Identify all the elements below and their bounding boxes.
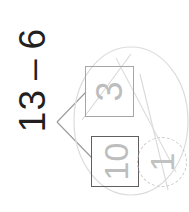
number-bond-box-bottom[interactable]: 10	[91, 136, 139, 187]
answer-value: 1	[138, 138, 186, 186]
bond-line-to-top-box	[57, 92, 86, 122]
box-bottom-value: 10	[91, 139, 140, 185]
answer-circle[interactable]: 1	[137, 137, 187, 187]
subtraction-expression: 13 – 6	[8, 10, 56, 150]
box-top-value: 3	[85, 68, 134, 115]
minus-operator: –	[14, 58, 51, 80]
minuend: 13	[14, 89, 51, 132]
worksheet-canvas: 13 – 6 3 10 1	[0, 0, 189, 212]
number-bond-box-top[interactable]: 3	[85, 66, 134, 117]
subtrahend: 6	[14, 28, 51, 50]
